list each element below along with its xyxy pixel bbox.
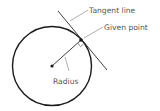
radius-leader	[65, 57, 69, 71]
given-point	[79, 38, 83, 42]
radius-label: Radius	[53, 77, 79, 86]
right-angle-mark	[78, 43, 85, 47]
tangent-diagram: Tangent line Given point Radius	[0, 0, 160, 111]
center-point	[50, 64, 53, 67]
tangent-line-label: Tangent line	[88, 6, 136, 15]
given-point-leader	[84, 27, 103, 38]
given-point-label: Given point	[104, 23, 148, 32]
tangent-leader	[70, 10, 88, 21]
